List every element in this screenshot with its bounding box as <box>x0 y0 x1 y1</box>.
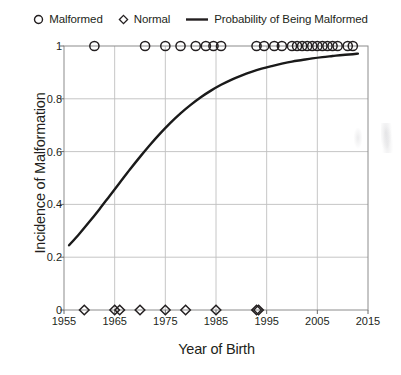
y-axis-title: Incidence of Malformation <box>32 48 48 298</box>
grid-lines <box>64 46 368 310</box>
x-tick-label: 2015 <box>338 315 398 327</box>
axis-tick-marks <box>60 46 368 314</box>
chart-figure: Malformed Normal Probability of Being Ma… <box>0 0 401 375</box>
x-axis-title: Year of Birth <box>64 341 369 357</box>
probability-curve <box>69 54 358 246</box>
